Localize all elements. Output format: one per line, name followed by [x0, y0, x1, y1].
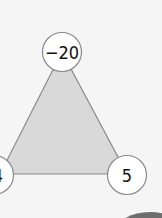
node-bottom-left-value: 4 — [0, 165, 3, 186]
node-top-value: −20 — [45, 42, 79, 63]
triangle-diagram: −20 4 5 — [0, 0, 162, 218]
node-bottom-right-value: 5 — [122, 165, 132, 186]
node-bottom-right: 5 — [108, 156, 147, 195]
node-top: −20 — [43, 33, 82, 72]
partial-shape-bottom-right — [116, 212, 162, 218]
